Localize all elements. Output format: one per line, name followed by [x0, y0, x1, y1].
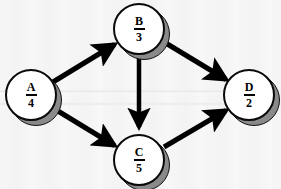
node-label: D 2	[244, 81, 255, 109]
node-circle: D 2	[223, 69, 275, 121]
node-label: C 5	[134, 146, 145, 174]
node-label: B 3	[134, 15, 145, 43]
node-circle: A 4	[5, 69, 57, 121]
node-label: A 4	[26, 81, 37, 109]
graph-node-a[interactable]: A 4	[5, 69, 57, 121]
node-numerator: D	[244, 81, 255, 94]
graph-node-d[interactable]: D 2	[223, 69, 275, 121]
edge-a-to-c	[53, 108, 115, 146]
edge-b-to-d	[164, 42, 226, 80]
node-numerator: B	[134, 15, 144, 28]
node-denominator: 2	[245, 97, 253, 109]
node-denominator: 5	[135, 162, 143, 174]
node-circle: C 5	[113, 134, 165, 186]
edge-a-to-b	[53, 45, 115, 83]
node-numerator: A	[26, 81, 37, 94]
node-denominator: 3	[135, 31, 143, 43]
node-numerator: C	[134, 146, 145, 159]
graph-node-b[interactable]: B 3	[113, 3, 165, 55]
node-circle: B 3	[113, 3, 165, 55]
edge-c-to-d	[164, 111, 226, 148]
graph-node-c[interactable]: C 5	[113, 134, 165, 186]
diagram-canvas: A 4 B 3 C 5 D	[0, 0, 281, 189]
node-denominator: 4	[27, 97, 35, 109]
